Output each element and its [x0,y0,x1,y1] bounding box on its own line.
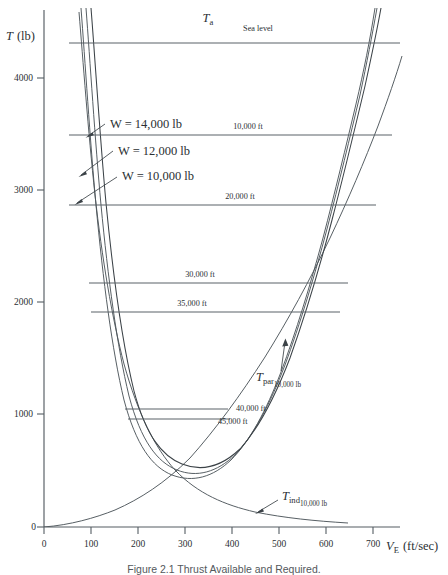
altitude-label-45000ft: 45,000 ft [218,417,248,426]
svg-text:T(lb): T(lb) [6,29,35,43]
x-axis-title-units: (ft/sec) [403,539,438,553]
x-tick-label-200: 200 [131,539,146,549]
y-tick-label-2000: 2000 [14,297,33,307]
altitude-label-sea-level: Sea level [243,24,274,33]
t-ind-subscript: ind [289,495,301,505]
y-axis-title-symbol: T [6,29,14,43]
x-axis-title: VE(ft/sec) [386,539,438,555]
t-ind-annotation: Tind10,000 lb [255,489,327,514]
axis-x [44,527,400,534]
x-tick-label-500: 500 [272,539,287,549]
svg-text:VE(ft/sec): VE(ft/sec) [386,539,438,555]
thrust-available-lines [69,43,400,419]
y-axis-title-units: (lb) [17,29,35,43]
weight-label-12000lb: W = 12,000 lb [118,144,190,158]
x-tick-label-700: 700 [366,539,381,549]
curve-t-ind-10000lb [79,12,348,523]
y-tick-label-1000: 1000 [14,409,33,419]
curve-thrust-required-12000lb [86,8,377,474]
t-par-weight: 10,000 lb [274,381,302,389]
thrust-available-annotation: Ta [203,11,214,27]
curve-thrust-required-10000lb [81,8,375,479]
x-tick-label-300: 300 [178,539,193,549]
weight-label-14000lb: W = 14,000 lb [110,117,182,131]
x-tick-label-100: 100 [84,539,99,549]
thrust-available-subscript: a [210,17,214,27]
altitude-label-35000ft: 35,000 ft [177,299,207,308]
axis-y [37,10,44,527]
x-axis-title-subscript: E [394,545,399,555]
altitude-label-30000ft: 30,000 ft [185,270,215,279]
t-ind-label: Tind10,000 lb [282,489,327,508]
y-tick-label-3000: 3000 [14,185,33,195]
altitude-label-10000ft: 10,000 ft [233,122,263,131]
t-ind-weight: 10,000 lb [300,500,328,508]
altitude-label-20000ft: 20,000 ft [225,192,255,201]
y-tick-label-4000: 4000 [14,73,33,83]
x-tick-label-0: 0 [42,539,47,549]
t-par-subscript: par [263,376,274,386]
x-tick-label-400: 400 [225,539,240,549]
altitude-label-40000ft: 40,000 ft [236,404,266,413]
y-axis-title: T(lb) [6,29,35,43]
figure-caption: Figure 2.1 Thrust Available and Required… [0,563,448,575]
y-tick-label-0: 0 [31,522,36,532]
curve-t-par-10000lb [44,56,402,527]
weight-label-10000lb: W = 10,000 lb [122,169,194,183]
curve-thrust-required-14000lb [91,8,381,468]
x-tick-label-600: 600 [319,539,334,549]
